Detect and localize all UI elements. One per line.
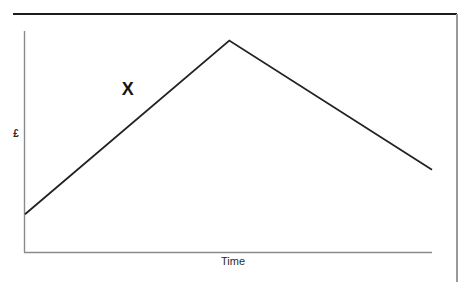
series-line-price [25, 41, 432, 215]
y-axis-label: £ [8, 128, 24, 140]
chart-canvas [0, 0, 470, 282]
chart-page: £ Time X [0, 0, 470, 282]
line-chart [0, 0, 470, 282]
annotation-label-x: X [122, 78, 134, 100]
x-axis-label: Time [188, 254, 278, 268]
